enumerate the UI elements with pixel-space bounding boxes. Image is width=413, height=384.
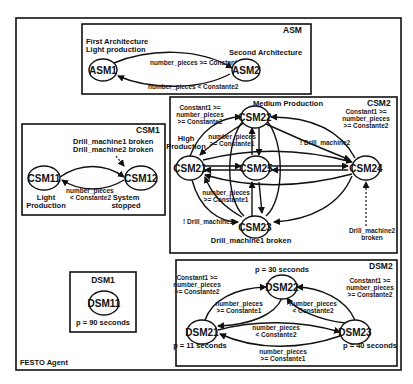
node-csm23-label: CSM23 bbox=[238, 222, 272, 233]
csm2-left-cond-1: Constant1 >= bbox=[179, 104, 220, 111]
csm2-lower-cond-2: >= Constante1 bbox=[204, 196, 249, 203]
dsm2-period-22: p = 30 seconds bbox=[255, 265, 309, 274]
node-csm21-label: CSM21 bbox=[173, 163, 207, 174]
dsm2-right-cond-3: >= Constante2 bbox=[348, 291, 393, 298]
csm1-edge-line2: < Constante2 bbox=[70, 194, 111, 201]
asm-title: ASM bbox=[283, 25, 302, 35]
dsm1-title: DSM1 bbox=[91, 275, 115, 285]
dsm1-panel: DSM1 DSM11 p = 90 seconds bbox=[70, 272, 136, 332]
node-dsm11-label: DSM11 bbox=[88, 298, 121, 309]
csm2-edge-25-23 bbox=[259, 182, 262, 213]
dsm2-bottom-2: >= Constante1 bbox=[261, 355, 306, 362]
asm-first-arch-line2: Light production bbox=[86, 45, 146, 54]
asm-edge-top-label: number_pieces >= Constante2 bbox=[150, 59, 245, 67]
csm2-edge-24-21 bbox=[205, 174, 352, 185]
node-asm1-label: ASM1 bbox=[89, 65, 117, 76]
asm-panel: ASM First Architecture Light production … bbox=[82, 24, 311, 94]
csm1-panel: CSM1 Drill_machine1 broken Drill_machine… bbox=[22, 124, 165, 215]
festo-agent-diagram: FESTO Agent ASM First Architecture Light… bbox=[0, 0, 413, 384]
asm-edge-bottom-label: number_pieces < Constante2 bbox=[148, 83, 239, 91]
csm2-drill2-broken-1: Drill_machine2 bbox=[349, 227, 396, 234]
csm2-title: CSM2 bbox=[367, 98, 391, 108]
csm2-high-2: Production bbox=[166, 142, 206, 151]
csm2-drill2-broken-2: broken bbox=[361, 234, 383, 241]
node-csm22-label: CSM22 bbox=[238, 112, 272, 123]
dsm2-inner-left-2: >= Constante1 bbox=[217, 307, 262, 314]
node-csm24-label: CSM24 bbox=[349, 163, 383, 174]
dsm2-mid-2: < Constante2 bbox=[256, 331, 297, 338]
node-csm25-label: CSM25 bbox=[239, 163, 273, 174]
dsm2-right-cond-1: Constant1 >= bbox=[349, 277, 390, 284]
dsm2-left-cond-1: Constant1 >= bbox=[176, 274, 217, 281]
dsm2-left-cond-3: >= Constante2 bbox=[175, 288, 220, 295]
csm2-edge-24-23 bbox=[274, 176, 352, 222]
csm2-medium: Medium Production bbox=[253, 99, 323, 108]
csm1-title: CSM1 bbox=[136, 125, 160, 135]
csm1-edge-top bbox=[60, 167, 124, 178]
csm2-edge-21-24-a bbox=[203, 151, 352, 162]
node-dsm22-label: DSM22 bbox=[265, 282, 299, 293]
node-asm2-label: ASM2 bbox=[232, 65, 260, 76]
node-csm11-label: CSM11 bbox=[28, 173, 61, 184]
csm2-right-cond-1: Constant1 >= bbox=[345, 108, 386, 115]
asm-second-arch: Second Architecture bbox=[229, 48, 302, 57]
dsm1-period: p = 90 seconds bbox=[76, 318, 130, 327]
agent-label: FESTO Agent bbox=[20, 358, 68, 367]
csm2-not-drill1: ! Drill_machine1 bbox=[183, 218, 234, 225]
node-dsm21-label: DSM21 bbox=[185, 327, 219, 338]
dsm2-title: DSM2 bbox=[369, 261, 393, 271]
csm11-desc-line2: Production bbox=[26, 201, 66, 210]
node-dsm23-label: DSM23 bbox=[338, 327, 372, 338]
csm2-panel: CSM2 Medium Production Constant1 >= numb… bbox=[166, 97, 397, 253]
csm1-trigger-arrow bbox=[116, 156, 124, 166]
node-csm12-label: CSM12 bbox=[124, 173, 158, 184]
csm12-desc-line2: stopped bbox=[111, 201, 141, 210]
csm2-right-cond-3: >= Constante2 bbox=[344, 122, 389, 129]
csm1-trigger-line2: Drill_machine2 broken bbox=[73, 145, 154, 154]
dsm2-panel: DSM2 p = 30 seconds p = 11 seconds p = 4… bbox=[173, 260, 397, 366]
